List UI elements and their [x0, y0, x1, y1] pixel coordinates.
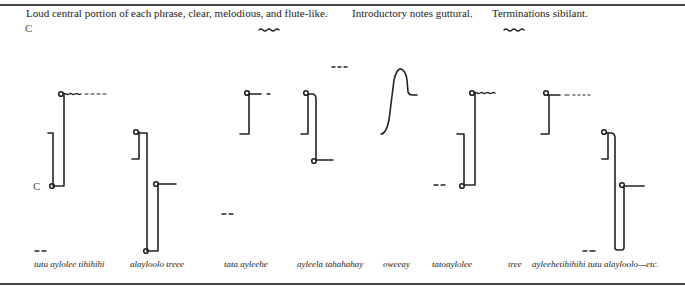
phrase-4-figure: [301, 67, 347, 163]
phrase-label-8: ayleehetihihihi tutu alayloolo—etc.: [532, 259, 659, 269]
phrase-8-figure: [583, 130, 644, 251]
phrase-label-3: tata ayleehe: [224, 259, 268, 269]
wavy-mark-sibilant: [504, 29, 524, 31]
phrase-1-figure: [35, 92, 106, 251]
phrase-label-1: tutu aylolee tihihihi: [34, 259, 105, 269]
phrase-3-figure: [222, 91, 270, 214]
wavy-mark-clear: [259, 29, 279, 31]
phrase-2-figure: [132, 130, 176, 254]
phrase-label-4: ayleela tahahahay: [297, 259, 363, 269]
phrase-label-6: tatoaylolee: [432, 259, 472, 269]
phrase-label-5: oweeay: [383, 259, 410, 269]
phrase-5-figure: [381, 69, 417, 134]
phrase-label-7: tree: [508, 259, 522, 269]
phrase-label-2: alayloolo treee: [130, 259, 184, 269]
phrase-7-figure: [541, 91, 590, 134]
song-diagram: [0, 0, 685, 290]
phrase-6-figure: [434, 91, 495, 189]
